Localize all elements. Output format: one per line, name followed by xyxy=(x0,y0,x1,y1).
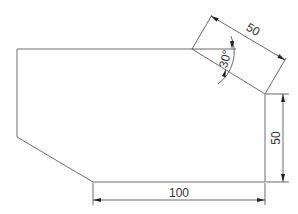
dimension-label-50-vertical: 50 xyxy=(269,131,283,145)
dimension-bottom-width: 100 xyxy=(93,183,265,205)
dimension-chamfer-length: 50 xyxy=(192,15,286,94)
dimension-label-100: 100 xyxy=(169,186,189,200)
dimension-label-50-chamfer: 50 xyxy=(244,20,263,39)
dimension-chamfer-angle: 30° xyxy=(216,36,234,84)
drawing-canvas: 100 50 50 30° xyxy=(0,0,298,214)
dimension-right-height: 50 xyxy=(266,94,289,182)
